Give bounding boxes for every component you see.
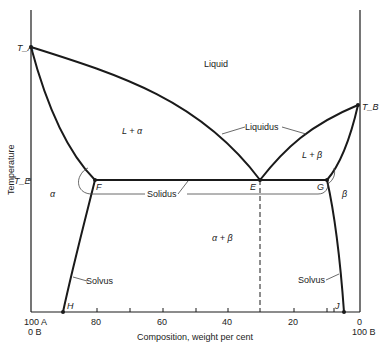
liquidus-right-curve xyxy=(260,105,358,180)
region-alpha: α xyxy=(50,189,56,199)
solvus-left-arrow xyxy=(73,277,87,281)
solvus-right-label: Solvus xyxy=(298,275,326,285)
region-beta: β xyxy=(341,189,347,199)
region-l-beta: L + β xyxy=(302,150,322,160)
region-liquid: Liquid xyxy=(204,59,228,69)
region-l-alpha: L + α xyxy=(122,126,143,136)
y-axis-label: Temperature xyxy=(6,144,16,195)
x-tick-label-80: 80 xyxy=(91,317,101,327)
region-alpha-beta: α + β xyxy=(212,233,233,243)
point-tb-label: T_B xyxy=(362,102,379,112)
x-tick-label-60: 60 xyxy=(157,317,167,327)
solidus-bracket xyxy=(92,184,328,194)
liquidus-arrow-left xyxy=(222,127,245,134)
x-tick-label-40: 40 xyxy=(222,317,232,327)
solidus-bracket-left-hook xyxy=(79,168,93,194)
point-f-label: F xyxy=(96,182,102,192)
solvus-right-curve xyxy=(327,180,344,312)
solidus-left-curve xyxy=(31,47,95,180)
te-label: T_E xyxy=(14,176,32,186)
x-axis-label: Composition, weight per cent xyxy=(137,332,254,342)
x-right-label-top: 0 xyxy=(357,317,362,327)
point-g-label: G xyxy=(317,182,324,192)
point-e-label: E xyxy=(250,182,257,192)
x-left-label-bottom: 0 B xyxy=(28,327,42,337)
x-right-label-bottom: 100 B xyxy=(352,327,376,337)
solvus-left-label: Solvus xyxy=(86,276,114,286)
solidus-right-curve xyxy=(327,105,358,180)
phase-diagram: Temperature Composition, weight per cent… xyxy=(0,0,386,349)
solvus-left-curve xyxy=(63,180,95,312)
point-ta-label: T_A xyxy=(17,43,34,53)
solidus-arrow xyxy=(178,181,188,194)
point-j-label: J xyxy=(334,301,340,311)
solidus-label: Solidus xyxy=(147,189,177,199)
liquidus-arrow-right xyxy=(282,127,306,134)
x-left-label-top: 100 A xyxy=(24,317,47,327)
x-tick-label-20: 20 xyxy=(288,317,298,327)
liquidus-label: Liquidus xyxy=(245,122,279,132)
point-h-label: H xyxy=(67,301,74,311)
solvus-right-arrow xyxy=(326,274,339,280)
